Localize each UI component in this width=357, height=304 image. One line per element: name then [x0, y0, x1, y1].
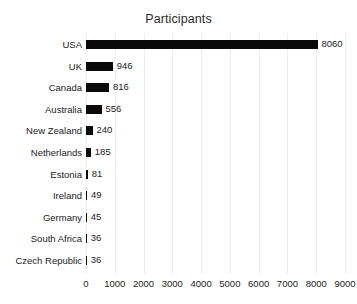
x-tick-label: 3000	[162, 277, 183, 291]
category-label: Germany	[0, 207, 82, 229]
bar	[86, 191, 87, 200]
bar	[86, 234, 87, 243]
bar-value-label: 946	[117, 59, 133, 73]
bar-row: 946	[86, 56, 345, 78]
bar	[86, 213, 87, 222]
bar	[86, 40, 318, 49]
gridline	[345, 34, 346, 274]
bar-value-label: 49	[91, 188, 102, 202]
x-tick-label: 1000	[104, 277, 125, 291]
bar-row: 240	[86, 120, 345, 142]
category-axis: USAUKCanadaAustraliaNew ZealandNetherlan…	[0, 34, 82, 274]
x-tick-label: 5000	[219, 277, 240, 291]
plot-area: 80609468165562401858149453636	[86, 34, 345, 274]
bar-value-label: 36	[91, 231, 102, 245]
bar-value-label: 185	[95, 145, 111, 159]
category-label: Czech Republic	[0, 250, 82, 272]
bar-value-label: 816	[113, 80, 129, 94]
bar-row: 36	[86, 250, 345, 272]
x-tick-label: 2000	[133, 277, 154, 291]
category-label: Netherlands	[0, 142, 82, 164]
bar-value-label: 45	[91, 210, 102, 224]
bar	[86, 256, 87, 265]
category-label: UK	[0, 56, 82, 78]
category-label: Ireland	[0, 185, 82, 207]
category-label: Estonia	[0, 164, 82, 186]
bar-value-label: 36	[91, 253, 102, 267]
bar-row: 45	[86, 207, 345, 229]
bar-row: 81	[86, 164, 345, 186]
bar	[86, 62, 113, 71]
bar-row: 36	[86, 228, 345, 250]
x-tick-label: 7000	[277, 277, 298, 291]
bar	[86, 105, 102, 114]
bar-value-label: 240	[96, 123, 112, 137]
bar-row: 556	[86, 99, 345, 121]
bar-value-label: 8060	[321, 37, 342, 51]
bar-row: 185	[86, 142, 345, 164]
bar-chart-figure: Participants USAUKCanadaAustraliaNew Zea…	[0, 0, 357, 304]
x-axis-tick-labels: 0100020003000400050006000700080009000	[0, 277, 357, 293]
bars-layer: 80609468165562401858149453636	[86, 34, 345, 274]
bar-value-label: 81	[92, 167, 103, 181]
category-label: New Zealand	[0, 120, 82, 142]
category-label: Canada	[0, 77, 82, 99]
category-label: South Africa	[0, 228, 82, 250]
x-tick-label: 8000	[306, 277, 327, 291]
bar-row: 8060	[86, 34, 345, 56]
category-label: USA	[0, 34, 82, 56]
bar	[86, 170, 88, 179]
chart-title: Participants	[0, 11, 357, 27]
bar	[86, 148, 91, 157]
x-tick-label: 6000	[248, 277, 269, 291]
bar-value-label: 556	[106, 102, 122, 116]
x-tick-label: 0	[83, 277, 88, 291]
bar-row: 816	[86, 77, 345, 99]
x-tick-label: 9000	[334, 277, 355, 291]
x-tick-label: 4000	[191, 277, 212, 291]
bar	[86, 126, 93, 135]
bar	[86, 83, 109, 92]
category-label: Australia	[0, 99, 82, 121]
bar-row: 49	[86, 185, 345, 207]
